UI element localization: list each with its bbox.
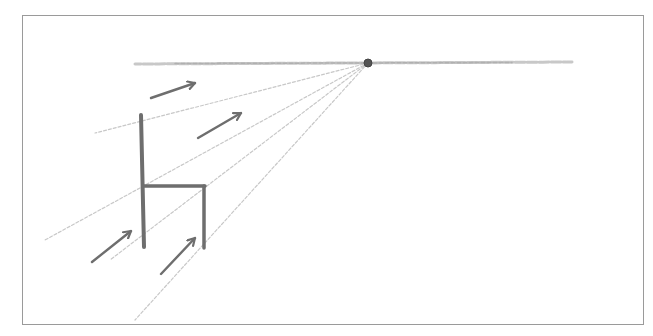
vanishing-point-dot bbox=[364, 59, 372, 67]
guide-right-leg bbox=[135, 63, 368, 320]
arrow-lower-left-icon bbox=[92, 231, 131, 262]
perspective-sketch bbox=[0, 0, 653, 336]
direction-arrows bbox=[92, 83, 241, 274]
arrow-lower-right-icon bbox=[161, 238, 195, 274]
arrow-upper-left-icon bbox=[151, 83, 195, 98]
horizon-line bbox=[135, 62, 572, 64]
guide-top-back bbox=[95, 63, 368, 133]
guide-seat-back bbox=[110, 63, 368, 260]
vanishing-point bbox=[364, 59, 372, 67]
arrow-upper-right-icon bbox=[198, 113, 241, 138]
chair-back-left-leg bbox=[141, 115, 144, 247]
perspective-guide-lines bbox=[45, 63, 368, 320]
guide-seat-front bbox=[45, 63, 368, 240]
